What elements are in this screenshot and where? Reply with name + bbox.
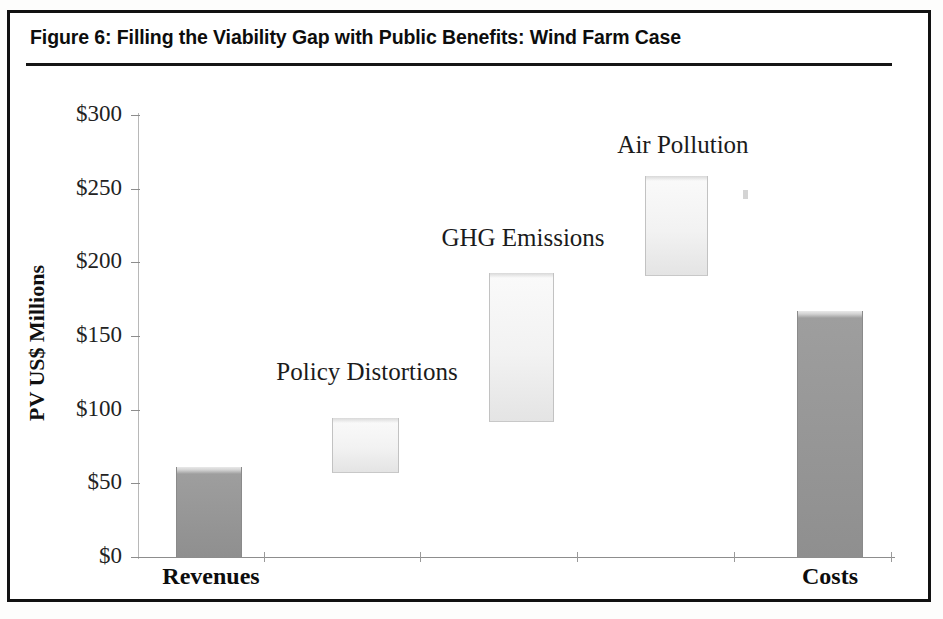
bar-label-ghg-emissions: GHG Emissions xyxy=(425,224,621,252)
y-tick-label-200: $200 xyxy=(44,249,122,272)
bar-ghg-emissions xyxy=(489,273,554,422)
bar-costs xyxy=(797,311,863,557)
x-tick-2 xyxy=(420,552,421,562)
x-tick-3 xyxy=(577,552,578,562)
bar-air-pollution xyxy=(645,176,708,276)
scan-artifact-speck xyxy=(743,190,748,199)
x-tick-1 xyxy=(264,552,265,562)
y-tick-label-100: $100 xyxy=(44,397,122,420)
bar-revenues xyxy=(176,467,242,557)
y-tick-label-300: $300 xyxy=(44,102,122,125)
bar-label-air-pollution: Air Pollution xyxy=(598,131,768,159)
y-tick-250 xyxy=(131,189,140,190)
x-tick-5 xyxy=(891,552,892,562)
y-tick-150 xyxy=(131,336,140,337)
y-tick-label-0: $0 xyxy=(44,544,122,567)
y-tick-0 xyxy=(131,557,140,558)
y-tick-50 xyxy=(131,483,140,484)
y-tick-300 xyxy=(131,115,140,116)
bar-policy-distortions xyxy=(332,418,399,473)
y-tick-100 xyxy=(131,410,140,411)
y-tick-label-150: $150 xyxy=(44,323,122,346)
figure-page: Figure 6: Filling the Viability Gap with… xyxy=(0,0,943,619)
category-label-revenues: Revenues xyxy=(131,563,291,590)
y-tick-label-50: $50 xyxy=(44,470,122,493)
x-tick-4 xyxy=(734,552,735,562)
y-tick-200 xyxy=(131,262,140,263)
bar-label-policy-distortions: Policy Distortions xyxy=(262,358,472,386)
x-axis-line xyxy=(138,557,895,558)
chart-plot-area: PV US$ Millions $300 $250 $200 $150 $100… xyxy=(0,0,943,619)
category-label-costs: Costs xyxy=(760,563,900,590)
y-tick-label-250: $250 xyxy=(44,176,122,199)
